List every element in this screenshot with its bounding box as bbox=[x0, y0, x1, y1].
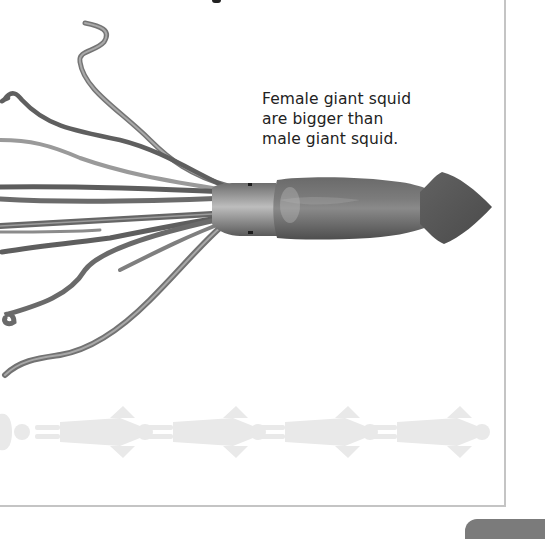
human-silhouette-icon bbox=[372, 406, 490, 458]
caption: Female giant squid are bigger than male … bbox=[262, 89, 502, 149]
tentacle-light bbox=[0, 140, 225, 190]
human-silhouette-icon bbox=[0, 414, 30, 451]
tentacles bbox=[0, 23, 230, 375]
squid-head bbox=[212, 183, 278, 236]
squid-fin bbox=[420, 172, 492, 244]
human-silhouette-icon bbox=[148, 406, 266, 458]
caption-line-3: male giant squid. bbox=[262, 129, 502, 149]
human-silhouette-icon bbox=[35, 406, 153, 458]
caption-line-1: Female giant squid bbox=[262, 89, 502, 109]
human-silhouette-icon bbox=[260, 406, 378, 458]
human-scale-silhouettes bbox=[0, 400, 500, 460]
tentacle-top-long bbox=[80, 23, 228, 186]
caption-line-2: are bigger than bbox=[262, 109, 502, 129]
eye-mark-bottom bbox=[248, 231, 253, 234]
tentacle-mid-1 bbox=[0, 187, 228, 192]
page-corner-tab bbox=[465, 519, 545, 539]
tentacle-mid-2 bbox=[0, 198, 228, 201]
eye-mark-top bbox=[248, 183, 252, 186]
tentacle-mid-4 bbox=[0, 230, 100, 232]
